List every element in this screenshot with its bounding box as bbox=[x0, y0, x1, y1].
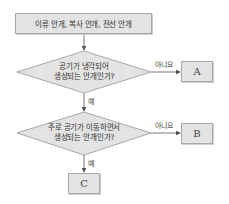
decision2-text: 주로 공기가 이동하면서 생성되는 안개인가? bbox=[29, 123, 139, 143]
start-label: 이류 안개, 복사 안개, 전선 안개 bbox=[35, 18, 132, 29]
outcome-a-label: A bbox=[193, 66, 200, 77]
outcome-c-label: C bbox=[80, 178, 88, 189]
decision2-yes-label: 예 bbox=[88, 158, 94, 168]
decision1-line2: 생성되는 안개인가? bbox=[34, 72, 134, 82]
outcome-c-box: C bbox=[68, 173, 100, 194]
decision1-line1: 공기가 냉각되어 bbox=[34, 62, 134, 72]
decision2-line2: 생성되는 안개인가? bbox=[29, 133, 139, 143]
start-box: 이류 안개, 복사 안개, 전선 안개 bbox=[15, 13, 152, 34]
decision2-line1: 주로 공기가 이동하면서 bbox=[29, 123, 139, 133]
outcome-b-label: B bbox=[193, 128, 200, 139]
decision2-no-label: 아니요 bbox=[155, 120, 173, 130]
decision1-no-label: 아니요 bbox=[155, 59, 173, 69]
outcome-a-box: A bbox=[181, 61, 213, 82]
decision1-text: 공기가 냉각되어 생성되는 안개인가? bbox=[34, 62, 134, 82]
outcome-b-box: B bbox=[181, 123, 213, 144]
decision1-yes-label: 예 bbox=[88, 96, 94, 106]
